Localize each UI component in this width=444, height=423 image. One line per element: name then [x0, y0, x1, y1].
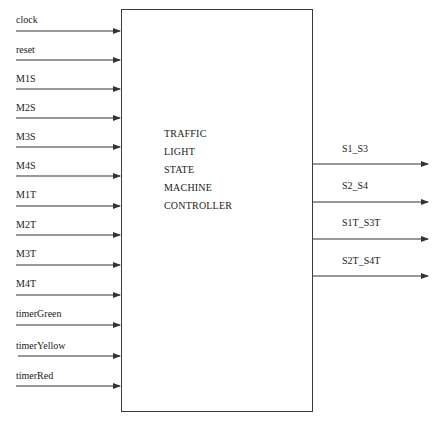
input-label-timergreen: timerGreen	[16, 308, 62, 320]
block-title-line: STATE	[164, 164, 194, 176]
output-label-s2t-s4t: S2T_S4T	[342, 255, 380, 267]
input-label-m1s: M1S	[16, 73, 35, 85]
block-title-line: CONTROLLER	[164, 200, 232, 212]
input-label-m3s: M3S	[16, 131, 35, 143]
input-label-m1t: M1T	[16, 189, 36, 201]
output-label-s1t-s3t: S1T_S3T	[342, 217, 380, 229]
input-label-m2s: M2S	[16, 102, 35, 114]
block-title-line: TRAFFIC	[164, 128, 207, 140]
output-label-s1-s3: S1_S3	[342, 143, 368, 155]
input-label-reset: reset	[16, 44, 35, 56]
output-label-s2-s4: S2_S4	[342, 180, 368, 192]
input-label-m3t: M3T	[16, 248, 36, 260]
input-label-m4t: M4T	[16, 278, 36, 290]
block-title-line: LIGHT	[164, 146, 195, 158]
block-title-line: MACHINE	[164, 182, 212, 194]
input-label-m4s: M4S	[16, 160, 35, 172]
input-label-clock: clock	[16, 14, 38, 26]
input-label-timeryellow: timerYellow	[16, 340, 66, 352]
input-label-m2t: M2T	[16, 219, 36, 231]
input-label-timerred: timerRed	[16, 370, 53, 382]
